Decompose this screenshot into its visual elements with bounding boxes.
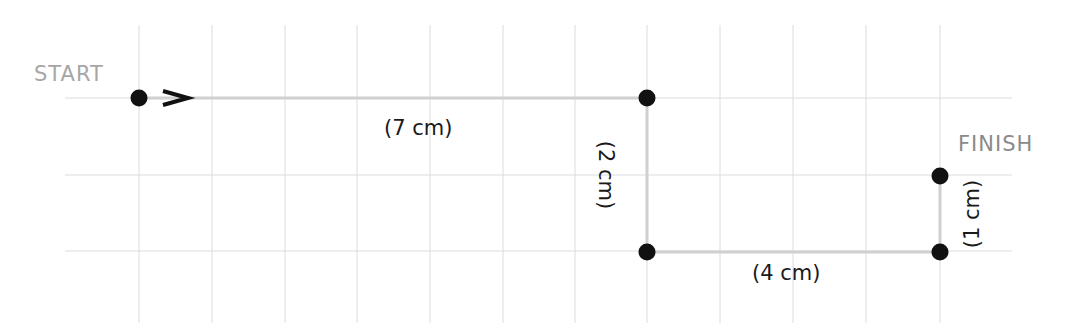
path-diagram <box>0 0 1081 331</box>
point-corner-2 <box>639 244 656 261</box>
finish-label: FINISH <box>958 132 1033 156</box>
point-corner-1 <box>639 90 656 107</box>
segment-label-4cm: (4 cm) <box>752 261 820 285</box>
grid <box>65 25 1012 323</box>
start-label: START <box>34 62 104 86</box>
point-start <box>131 90 148 107</box>
segment-label-2cm: (2 cm) <box>594 141 618 209</box>
segment-label-7cm: (7 cm) <box>384 116 452 140</box>
point-corner-3 <box>932 244 949 261</box>
point-finish <box>932 168 949 185</box>
segment-label-1cm: (1 cm) <box>960 180 984 248</box>
